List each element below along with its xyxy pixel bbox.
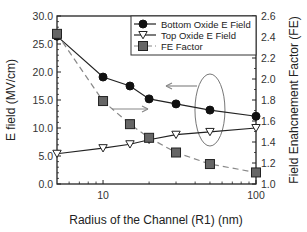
circle-marker-icon (206, 106, 214, 114)
square-marker-icon (205, 160, 214, 169)
legend-label: Bottom Oxide E Field (161, 19, 251, 30)
y-tick-label: 15.0 (33, 94, 54, 106)
y-tick-label: 25.0 (33, 38, 54, 50)
square-marker-icon (145, 133, 154, 142)
y-right-tick-label: 2.4 (261, 31, 276, 43)
series-line (57, 128, 256, 154)
x-axis-title: Radius of the Channel (R1) (nm) (69, 213, 242, 227)
legend-label: FE Factor (161, 41, 203, 52)
circle-marker-icon (172, 100, 180, 108)
circle-marker-icon (139, 20, 147, 28)
square-marker-icon (252, 168, 261, 177)
y-right-tick-label: 1.2 (261, 157, 276, 169)
chart: 0.05.010.015.020.025.030.0 1.01.21.41.61… (0, 0, 307, 232)
y-right-tick-label: 1.6 (261, 115, 276, 127)
x-axis-ticks: 10100 (69, 180, 265, 201)
y-right-tick-label: 1.0 (261, 178, 276, 190)
y-tick-label: 20.0 (33, 66, 54, 78)
legend: Bottom Oxide E FieldTop Oxide E FieldFE … (131, 16, 256, 55)
series-top-oxide-e-field (53, 125, 260, 158)
circle-marker-icon (145, 95, 153, 103)
square-marker-icon (53, 29, 62, 38)
square-marker-icon (139, 42, 148, 51)
y-axis-title-left: E field (MV/cm) (4, 59, 18, 141)
y-right-tick-label: 2.6 (261, 10, 276, 22)
x-tick-label: 10 (97, 189, 109, 201)
legend-label: Top Oxide E Field (161, 30, 236, 41)
square-marker-icon (99, 97, 108, 106)
circle-marker-icon (252, 112, 260, 120)
y-right-tick-label: 1.8 (261, 94, 276, 106)
circle-marker-icon (99, 73, 107, 81)
y-tick-label: 0.0 (38, 178, 53, 190)
y-tick-label: 10.0 (33, 122, 54, 134)
y-right-tick-label: 2.0 (261, 73, 276, 85)
y-right-tick-label: 1.4 (261, 136, 276, 148)
y-axis-title-right: Field Enahcnement Factor (FE) (287, 16, 301, 183)
y-tick-label: 5.0 (38, 150, 53, 162)
y-tick-label: 30.0 (33, 10, 54, 22)
square-marker-icon (125, 120, 134, 129)
y-right-tick-label: 2.2 (261, 52, 276, 64)
x-tick-label: 100 (247, 189, 265, 201)
square-marker-icon (172, 148, 181, 157)
circle-marker-icon (126, 82, 134, 90)
